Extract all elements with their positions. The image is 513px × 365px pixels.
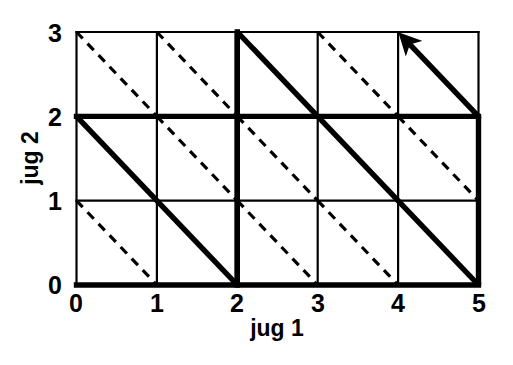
xtick-label-4: 4 (391, 291, 405, 316)
xtick-label-0: 0 (69, 291, 83, 316)
x-axis-title: jug 1 (250, 317, 304, 340)
jug-problem-diagram: 0 1 2 3 0 1 2 3 4 5 jug 1 jug 2 (0, 0, 513, 365)
xtick-label-3: 3 (311, 291, 325, 316)
ytick-label-0: 0 (40, 273, 62, 298)
ytick-label-3: 3 (40, 21, 62, 46)
xtick-label-2: 2 (230, 291, 244, 316)
y-axis-title: jug 2 (19, 131, 42, 185)
ytick-label-2: 2 (40, 105, 62, 130)
xtick-label-5: 5 (472, 291, 486, 316)
ytick-label-1: 1 (40, 189, 62, 214)
xtick-label-1: 1 (150, 291, 164, 316)
